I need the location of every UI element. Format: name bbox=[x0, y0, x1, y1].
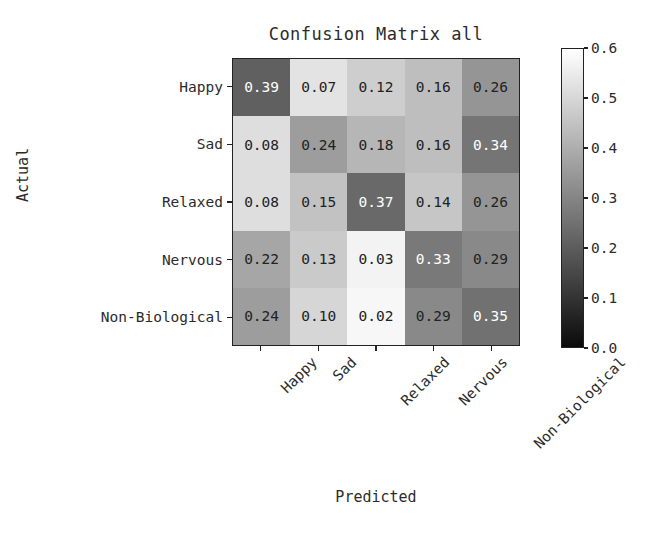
heatmap-cell-value: 0.24 bbox=[301, 138, 336, 153]
y-axis-tick-mark bbox=[227, 144, 232, 145]
y-axis-title: Actual bbox=[14, 148, 32, 202]
x-axis-title: Predicted bbox=[232, 488, 520, 506]
heatmap-cell-value: 0.29 bbox=[416, 309, 451, 324]
colorbar-tick-label: 0.4 bbox=[591, 140, 617, 156]
heatmap-cell-value: 0.10 bbox=[301, 309, 336, 324]
heatmap-cell-value: 0.37 bbox=[359, 195, 394, 210]
x-axis-tick-mark bbox=[260, 346, 261, 351]
x-axis-tick-label: Nervous bbox=[455, 354, 510, 409]
heatmap-cell-value: 0.08 bbox=[244, 138, 279, 153]
colorbar-tick-label: 0.6 bbox=[591, 40, 617, 56]
heatmap-cell-value: 0.15 bbox=[301, 195, 336, 210]
heatmap-cell-value: 0.26 bbox=[473, 195, 508, 210]
y-axis-tick-label: Nervous bbox=[162, 252, 223, 268]
colorbar-tick-label: 0.3 bbox=[591, 190, 617, 206]
confusion-matrix-figure: Confusion Matrix all Actual 0.390.070.12… bbox=[0, 0, 648, 539]
heatmap-cell: 0.22 bbox=[233, 231, 290, 288]
x-axis-tick-label: Happy bbox=[278, 354, 320, 396]
y-axis-tick-mark bbox=[227, 317, 232, 318]
heatmap-cell: 0.08 bbox=[233, 173, 290, 230]
heatmap-cell: 0.02 bbox=[347, 288, 404, 345]
chart-title: Confusion Matrix all bbox=[232, 24, 520, 44]
heatmap-cell: 0.29 bbox=[462, 231, 519, 288]
heatmap-cell-value: 0.08 bbox=[244, 195, 279, 210]
heatmap-cell-value: 0.13 bbox=[301, 252, 336, 267]
colorbar-tick-mark bbox=[584, 197, 588, 198]
x-axis-tick-label: Sad bbox=[330, 354, 360, 384]
y-axis-tick-mark bbox=[227, 259, 232, 260]
colorbar-tick-label: 0.2 bbox=[591, 240, 617, 256]
heatmap-cell-value: 0.16 bbox=[416, 80, 451, 95]
colorbar bbox=[561, 48, 584, 348]
heatmap-cell: 0.16 bbox=[405, 116, 462, 173]
heatmap-cell: 0.07 bbox=[290, 59, 347, 116]
heatmap-cell: 0.33 bbox=[405, 231, 462, 288]
heatmap-cell: 0.12 bbox=[347, 59, 404, 116]
heatmap-cell: 0.34 bbox=[462, 116, 519, 173]
y-axis-tick-mark bbox=[227, 86, 232, 87]
heatmap-grid: 0.390.070.120.160.260.080.240.180.160.34… bbox=[233, 59, 519, 345]
x-axis-tick-label: Non-Biological bbox=[531, 354, 629, 452]
colorbar-tick-label: 0.5 bbox=[591, 90, 617, 106]
heatmap-cell: 0.37 bbox=[347, 173, 404, 230]
colorbar-tick-label: 0.0 bbox=[591, 340, 617, 356]
heatmap-cell: 0.08 bbox=[233, 116, 290, 173]
heatmap-cell-value: 0.07 bbox=[301, 80, 336, 95]
colorbar-tick-mark bbox=[584, 247, 588, 248]
colorbar-tick-mark bbox=[584, 47, 588, 48]
heatmap-cell-value: 0.16 bbox=[416, 138, 451, 153]
heatmap-cell-value: 0.22 bbox=[244, 252, 279, 267]
heatmap-cell: 0.26 bbox=[462, 59, 519, 116]
y-axis-tick-label: Happy bbox=[179, 79, 223, 95]
heatmap-cell-value: 0.34 bbox=[473, 138, 508, 153]
heatmap-cell: 0.18 bbox=[347, 116, 404, 173]
x-axis-tick-mark bbox=[491, 346, 492, 351]
heatmap-cell-value: 0.26 bbox=[473, 80, 508, 95]
colorbar-gradient bbox=[562, 49, 583, 347]
heatmap-cell-value: 0.35 bbox=[473, 309, 508, 324]
heatmap-cell: 0.35 bbox=[462, 288, 519, 345]
heatmap-cell-value: 0.18 bbox=[359, 138, 394, 153]
heatmap-cell: 0.16 bbox=[405, 59, 462, 116]
heatmap-cell: 0.14 bbox=[405, 173, 462, 230]
heatmap-plot-area: 0.390.070.120.160.260.080.240.180.160.34… bbox=[232, 58, 520, 346]
y-axis-tick-label: Non-Biological bbox=[101, 309, 223, 325]
heatmap-cell-value: 0.14 bbox=[416, 195, 451, 210]
heatmap-cell: 0.24 bbox=[290, 116, 347, 173]
heatmap-cell: 0.13 bbox=[290, 231, 347, 288]
heatmap-cell: 0.03 bbox=[347, 231, 404, 288]
heatmap-cell-value: 0.02 bbox=[359, 309, 394, 324]
colorbar-tick-mark bbox=[584, 97, 588, 98]
colorbar-tick-mark bbox=[584, 347, 588, 348]
heatmap-cell: 0.10 bbox=[290, 288, 347, 345]
x-axis-tick-mark bbox=[433, 346, 434, 351]
y-axis-tick-label: Sad bbox=[197, 136, 223, 152]
heatmap-cell-value: 0.29 bbox=[473, 252, 508, 267]
heatmap-cell: 0.15 bbox=[290, 173, 347, 230]
heatmap-cell: 0.24 bbox=[233, 288, 290, 345]
x-axis-tick-mark bbox=[318, 346, 319, 351]
colorbar-tick-label: 0.1 bbox=[591, 290, 617, 306]
y-axis-tick-label: Relaxed bbox=[162, 194, 223, 210]
x-axis-tick-mark bbox=[375, 346, 376, 351]
heatmap-cell-value: 0.03 bbox=[359, 252, 394, 267]
colorbar-tick-mark bbox=[584, 297, 588, 298]
colorbar-tick-mark bbox=[584, 147, 588, 148]
heatmap-cell: 0.39 bbox=[233, 59, 290, 116]
heatmap-cell-value: 0.12 bbox=[359, 80, 394, 95]
heatmap-cell-value: 0.24 bbox=[244, 309, 279, 324]
heatmap-cell-value: 0.33 bbox=[416, 252, 451, 267]
heatmap-cell: 0.26 bbox=[462, 173, 519, 230]
x-axis-tick-label: Relaxed bbox=[398, 354, 453, 409]
y-axis-tick-mark bbox=[227, 201, 232, 202]
heatmap-cell: 0.29 bbox=[405, 288, 462, 345]
heatmap-cell-value: 0.39 bbox=[244, 80, 279, 95]
